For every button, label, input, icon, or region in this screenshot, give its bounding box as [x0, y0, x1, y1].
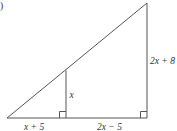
inner-right-angle-icon — [60, 112, 67, 119]
label-inner-height: x — [69, 90, 75, 100]
similar-triangles-diagram: ) x + 5 2x − 5 x 2x + 8 — [0, 0, 177, 131]
figure-marker: ) — [0, 1, 3, 12]
hypotenuse — [7, 3, 147, 118]
outer-right-angle-icon — [141, 112, 148, 119]
label-outer-height: 2x + 8 — [150, 56, 175, 66]
label-right-base: 2x − 5 — [97, 122, 122, 131]
label-left-base: x + 5 — [23, 122, 44, 131]
